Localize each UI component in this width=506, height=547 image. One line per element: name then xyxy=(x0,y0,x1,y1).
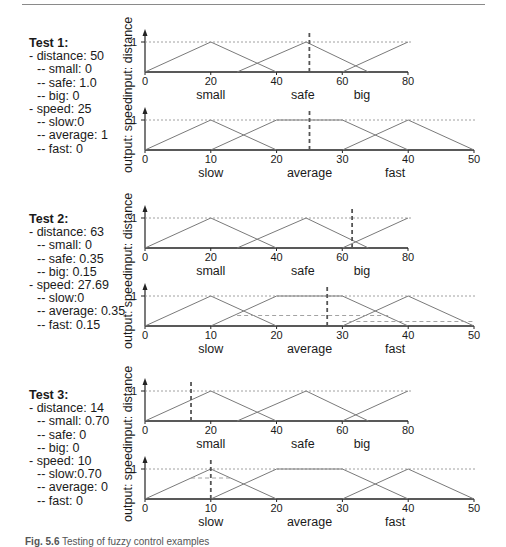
x-tick-label: 10 xyxy=(205,502,217,514)
arrow-up-icon xyxy=(143,29,148,36)
arrow-up-icon xyxy=(143,205,148,212)
x-tick-label: 60 xyxy=(336,75,348,87)
y-axis-label: output: speed xyxy=(121,97,135,173)
caption-text: Testing of fuzzy control examples xyxy=(62,536,209,547)
x-tick-label: 0 xyxy=(142,75,148,87)
x-tick-label: 0 xyxy=(142,424,148,436)
x-tick-label: 50 xyxy=(468,329,480,341)
x-tick-label: 40 xyxy=(270,75,282,87)
set-name-label: safe xyxy=(291,437,315,451)
distance-plot: input: distance1020406080smallsafebig xyxy=(121,17,414,102)
membership-average xyxy=(211,469,408,499)
y-axis-label: input: distance xyxy=(121,17,135,98)
membership-fast xyxy=(342,469,474,499)
distance-plot: input: distance1020406080smallsafebig xyxy=(121,193,414,278)
distance-plot: input: distance1020406080smallsafebig xyxy=(121,366,414,451)
x-tick-label: 50 xyxy=(468,502,480,514)
x-tick-label: 20 xyxy=(205,75,217,87)
set-name-label: average xyxy=(287,342,332,356)
x-tick-label: 40 xyxy=(270,424,282,436)
arrow-up-icon xyxy=(143,456,148,463)
x-tick-label: 50 xyxy=(468,153,480,165)
figure-caption: Fig. 5.6 Testing of fuzzy control exampl… xyxy=(25,536,209,547)
x-tick-label: 20 xyxy=(270,502,282,514)
arrow-up-icon xyxy=(143,378,148,385)
set-name-label: fast xyxy=(385,515,406,529)
x-tick-label: 40 xyxy=(270,251,282,263)
set-name-label: small xyxy=(196,437,225,451)
x-tick-label: 60 xyxy=(336,424,348,436)
x-tick-label: 60 xyxy=(336,251,348,263)
y-tick-label: 1 xyxy=(131,463,137,475)
y-tick-label: 1 xyxy=(131,290,137,302)
speed-plot: output: speed101020304050slowaveragefast xyxy=(121,97,480,180)
membership-safe xyxy=(237,391,368,421)
membership-small xyxy=(145,218,277,248)
membership-slow xyxy=(145,120,277,150)
set-name-label: slow xyxy=(198,166,224,180)
membership-small xyxy=(145,391,277,421)
set-name-label: big xyxy=(354,437,371,451)
set-name-label: average xyxy=(287,515,332,529)
x-tick-label: 10 xyxy=(205,329,217,341)
y-axis-label: input: distance xyxy=(121,366,135,447)
arrow-up-icon xyxy=(143,283,148,290)
membership-small xyxy=(145,42,277,72)
set-name-label: safe xyxy=(291,264,315,278)
x-tick-label: 80 xyxy=(402,251,414,263)
x-tick-label: 30 xyxy=(336,153,348,165)
membership-big xyxy=(342,42,408,72)
speed-plot: output: speed101020304050slowaveragefast xyxy=(121,273,480,356)
set-name-label: fast xyxy=(385,342,406,356)
membership-safe xyxy=(237,218,368,248)
arrow-up-icon xyxy=(143,107,148,114)
set-name-label: safe xyxy=(291,88,315,102)
x-tick-label: 0 xyxy=(142,153,148,165)
membership-fast xyxy=(342,120,474,150)
x-tick-label: 40 xyxy=(402,502,414,514)
x-tick-label: 10 xyxy=(205,153,217,165)
x-tick-label: 30 xyxy=(336,502,348,514)
x-tick-label: 20 xyxy=(205,424,217,436)
membership-slow xyxy=(145,296,277,326)
x-tick-label: 20 xyxy=(270,329,282,341)
x-tick-label: 0 xyxy=(142,502,148,514)
y-tick-label: 1 xyxy=(131,114,137,126)
caption-label: Fig. 5.6 xyxy=(25,536,59,547)
x-tick-label: 0 xyxy=(142,329,148,341)
x-tick-label: 80 xyxy=(402,424,414,436)
x-tick-label: 80 xyxy=(402,75,414,87)
set-name-label: small xyxy=(196,264,225,278)
set-name-label: big xyxy=(354,88,371,102)
x-tick-label: 20 xyxy=(205,251,217,263)
set-name-label: slow xyxy=(198,342,224,356)
set-name-label: small xyxy=(196,88,225,102)
x-tick-label: 0 xyxy=(142,251,148,263)
membership-safe xyxy=(237,42,368,72)
y-tick-label: 1 xyxy=(131,36,137,48)
set-name-label: slow xyxy=(198,515,224,529)
y-axis-label: output: speed xyxy=(121,273,135,349)
y-axis-label: input: distance xyxy=(121,193,135,274)
set-name-label: average xyxy=(287,166,332,180)
y-tick-label: 1 xyxy=(131,212,137,224)
set-name-label: big xyxy=(354,264,371,278)
speed-plot: output: speed101020304050slowaveragefast xyxy=(121,446,480,529)
y-tick-label: 1 xyxy=(131,385,137,397)
x-tick-label: 20 xyxy=(270,153,282,165)
y-axis-label: output: speed xyxy=(121,446,135,522)
membership-big xyxy=(342,391,408,421)
x-tick-label: 40 xyxy=(402,153,414,165)
x-tick-label: 30 xyxy=(336,329,348,341)
x-tick-label: 40 xyxy=(402,329,414,341)
set-name-label: fast xyxy=(385,166,406,180)
